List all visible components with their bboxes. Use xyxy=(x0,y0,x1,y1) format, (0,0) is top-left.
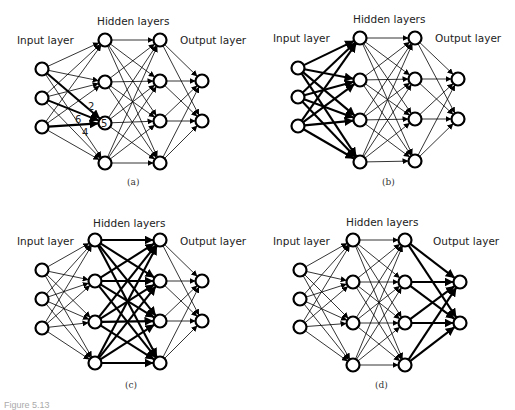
connection-edge xyxy=(48,323,88,328)
hidden1-node xyxy=(354,74,367,87)
connection-edge xyxy=(47,275,91,318)
hidden2-node xyxy=(409,32,422,45)
figure-caption: Figure 5.13 xyxy=(4,400,50,410)
hidden2-node xyxy=(409,113,422,126)
connection-edge xyxy=(163,287,199,357)
input-layer-label: Input layer xyxy=(273,235,331,247)
input-node xyxy=(294,264,307,277)
hidden1-node xyxy=(354,114,367,127)
hidden2-node xyxy=(154,357,167,370)
output-node xyxy=(196,115,209,128)
connection-edge xyxy=(165,245,198,277)
weight-label: 2 xyxy=(88,101,94,112)
connection-edge xyxy=(366,161,408,162)
output-layer-label: Output layer xyxy=(433,235,500,247)
hidden1-node xyxy=(89,316,102,329)
connection-edge xyxy=(306,284,347,297)
input-node xyxy=(292,62,305,75)
connection-edge xyxy=(165,326,198,359)
connection-edge xyxy=(306,271,346,280)
output-node xyxy=(454,317,467,330)
connection-edge xyxy=(366,119,408,120)
input-layer-label: Input layer xyxy=(273,32,331,44)
output-layer-label: Output layer xyxy=(180,34,247,46)
connection-edge xyxy=(305,331,347,361)
input-node xyxy=(292,91,305,104)
hidden2-node xyxy=(399,234,412,247)
hidden2-node xyxy=(399,317,412,330)
hidden1-node xyxy=(89,275,102,288)
connection-edge xyxy=(48,123,98,126)
connection-edge xyxy=(303,246,349,322)
hidden2-node xyxy=(154,275,167,288)
connection-edge xyxy=(306,323,346,326)
output-node xyxy=(452,113,465,126)
output-node xyxy=(196,275,209,288)
input-node xyxy=(294,321,307,334)
hidden1-node xyxy=(89,234,102,247)
hidden1-node xyxy=(99,157,112,170)
input-node xyxy=(292,120,305,133)
connection-edge xyxy=(420,42,454,74)
hidden1-node xyxy=(347,359,360,372)
hidden2-node xyxy=(154,234,167,247)
hidden1-node xyxy=(354,156,367,169)
connection-edge xyxy=(418,85,455,155)
input-node xyxy=(36,293,49,306)
connection-edge xyxy=(46,304,91,358)
connection-edge xyxy=(304,69,353,79)
hidden2-node xyxy=(154,115,167,128)
input-node xyxy=(36,92,49,105)
connection-edge xyxy=(303,42,356,92)
weight-label: 6 xyxy=(75,114,81,125)
hidden2-node xyxy=(154,34,167,47)
panel-d: Hidden layersInput layerOutput layer(d) xyxy=(273,216,500,390)
connection-edge xyxy=(304,129,355,158)
hidden1-node xyxy=(347,234,360,247)
output-node xyxy=(196,75,209,88)
hidden2-node xyxy=(409,155,422,168)
connection-edge xyxy=(47,332,89,360)
connection-edge xyxy=(304,121,353,126)
connection-edge xyxy=(163,46,199,115)
connection-edge xyxy=(48,130,100,160)
connection-edge xyxy=(410,244,455,278)
connection-edge xyxy=(48,43,99,67)
input-node xyxy=(36,63,49,76)
connection-edge xyxy=(163,87,199,157)
connection-edge xyxy=(410,327,455,361)
panel-sublabel: (d) xyxy=(375,380,388,390)
connection-edge xyxy=(47,44,100,93)
weight-label: 5 xyxy=(101,118,107,129)
hidden1-node xyxy=(347,276,360,289)
input-layer-label: Input layer xyxy=(17,235,75,247)
weight-label: 4 xyxy=(82,127,88,138)
panel-a: Hidden layersInput layerOutput layer(a)2… xyxy=(17,15,247,187)
connection-edge xyxy=(46,245,90,294)
connection-edge xyxy=(305,275,349,319)
connection-edge xyxy=(418,44,455,114)
connection-edge xyxy=(365,123,410,158)
connection-edge xyxy=(304,245,348,294)
output-node xyxy=(454,276,467,289)
hidden2-node xyxy=(154,315,167,328)
connection-edge xyxy=(48,70,98,80)
panel-sublabel: (b) xyxy=(382,177,395,187)
panel-sublabel: (a) xyxy=(127,177,139,187)
hidden2-node xyxy=(409,73,422,86)
panel-b: Hidden layersInput layerOutput layer(b) xyxy=(273,13,502,187)
input-node xyxy=(36,322,49,335)
connection-edge xyxy=(48,271,88,279)
output-node xyxy=(452,73,465,86)
hidden1-node xyxy=(347,317,360,330)
input-node xyxy=(294,293,307,306)
panel-c: Hidden layersInput layerOutput layer(c) xyxy=(17,217,247,390)
input-node xyxy=(36,264,49,277)
hidden-layers-label: Hidden layers xyxy=(97,15,169,27)
hidden1-node xyxy=(89,357,102,370)
hidden-layers-label: Hidden layers xyxy=(93,217,165,229)
hidden1-node xyxy=(99,34,112,47)
output-layer-label: Output layer xyxy=(180,235,247,247)
connection-edge xyxy=(163,246,199,315)
